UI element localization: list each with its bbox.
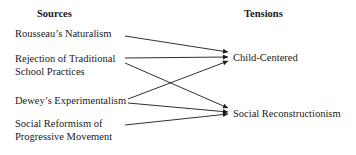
arrow-dewey-to-child [128,61,228,99]
arrow-dewey-to-recon [128,103,228,112]
arrow-rejection-to-child [125,57,228,58]
arrow-rejection-to-recon [125,63,228,108]
arrow-reformism-to-recon [125,114,228,125]
arrow-rousseau-to-child [125,36,228,52]
connector-arrows [0,0,356,155]
